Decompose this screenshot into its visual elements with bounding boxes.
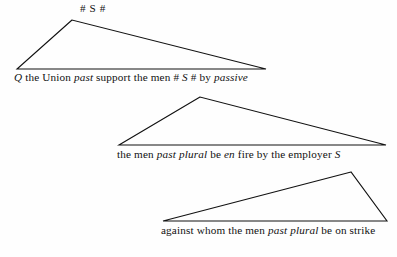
derivation-line-1: Q the Union past support the men # S # b… [14, 71, 248, 83]
derivation-line-3-segment-2: be on strike [318, 224, 375, 236]
derivation-line-3: against whom the men past plural be on s… [161, 224, 375, 236]
derivation-line-2-segment-1: past plural [157, 148, 207, 160]
derivation-line-3-segment-0: against whom the men [161, 224, 268, 236]
derivation-line-3-segment-1: past plural [268, 224, 318, 236]
derivation-line-2: the men past plural be en fire by the em… [117, 148, 340, 160]
top-node-label: # S # [80, 2, 106, 14]
derivation-line-1-segment-5: S [179, 71, 191, 83]
diagram-canvas: # S # Q the Union past support the men #… [0, 0, 397, 257]
derivation-line-1-segment-3: support the men [93, 71, 173, 83]
triangle-2 [119, 97, 386, 145]
triangle-1-shape [17, 20, 266, 69]
derivation-line-2-segment-2: be [207, 148, 224, 160]
derivation-line-1-segment-0: Q [14, 71, 22, 83]
derivation-line-1-segment-7: by [197, 71, 214, 83]
derivation-line-2-segment-5: S [335, 148, 341, 160]
derivation-line-2-segment-0: the men [117, 148, 157, 160]
derivation-line-2-segment-3: en [224, 148, 235, 160]
derivation-line-2-segment-4: fire by the employer [235, 148, 335, 160]
derivation-line-1-segment-2: past [74, 71, 93, 83]
triangle-1 [17, 20, 266, 69]
triangle-3-shape [163, 172, 387, 221]
triangle-3 [163, 172, 387, 221]
derivation-line-1-segment-1: the Union [22, 71, 74, 83]
triangle-2-shape [119, 97, 386, 145]
derivation-line-1-segment-8: passive [214, 71, 248, 83]
triangle-group [0, 0, 397, 257]
